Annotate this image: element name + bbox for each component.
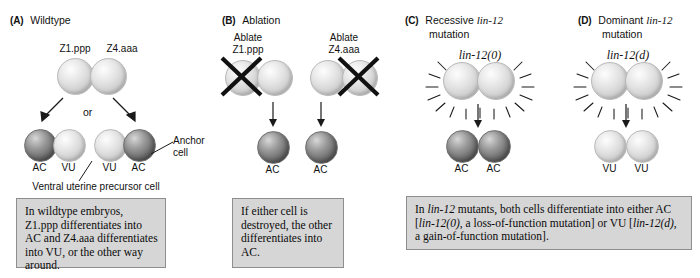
cell-outcome-d1-vu xyxy=(594,130,627,163)
caption-panel-b: If either cell is destroyed, the other d… xyxy=(232,198,344,268)
panel-b-title: Ablation xyxy=(242,14,280,26)
label-or: or xyxy=(83,106,92,118)
caption-panel-a: In wildtype embryos, Z1.ppp differentiat… xyxy=(16,198,166,268)
cell-outcome-c2-ac xyxy=(478,130,511,163)
label-outcome-b2: AC xyxy=(305,164,336,176)
panel-a-title: Wildtype xyxy=(30,14,70,26)
label-outcome-a3: VU xyxy=(94,162,125,174)
panel-b-tag: (B) xyxy=(222,15,235,26)
cell-d-left-lin12-d xyxy=(591,62,629,100)
label-outcome-c2: AC xyxy=(478,163,509,175)
panel-d-title: Dominant xyxy=(598,14,646,26)
label-outcome-d2: VU xyxy=(626,163,657,175)
arrow-b-left xyxy=(266,102,280,128)
panel-c-title: Recessive xyxy=(425,14,476,26)
panel-d-heading: (D)Dominant lin-12mutation xyxy=(578,14,672,40)
shared-caption-gene2: lin-12(0) xyxy=(419,217,460,229)
arrow-c xyxy=(471,104,485,129)
panel-c-title-gene: lin-12 xyxy=(477,14,503,26)
shared-caption-gene1: lin-12 xyxy=(427,203,454,215)
panel-b-heading: (B)Ablation xyxy=(222,14,280,28)
panel-d-title-gene: lin-12 xyxy=(646,14,672,26)
ablation-x-icon-left xyxy=(219,55,265,99)
shared-caption-gene3: lin-12(d) xyxy=(633,217,674,229)
ablation-x-icon-right xyxy=(336,55,382,99)
panel-c-title-line2: mutation xyxy=(429,28,503,41)
figure-root: (A)Wildtype Z1.ppp Z4.aaa or AC VU VU AC… xyxy=(0,0,700,278)
label-outcome-d1: VU xyxy=(594,163,625,175)
arrow-d xyxy=(619,104,633,129)
label-z1ppp: Z1.ppp xyxy=(52,43,98,55)
label-z4aaa: Z4.aaa xyxy=(99,43,145,55)
label-outcome-b1: AC xyxy=(257,164,288,176)
panel-a-heading: (A)Wildtype xyxy=(10,14,71,28)
panel-c-heading: (C)Recessive lin-12mutation xyxy=(405,14,503,40)
arrow-b-right xyxy=(314,102,328,128)
label-ablate-z1ppp-line1: Ablate xyxy=(222,32,274,44)
cell-c-left-lin12-0 xyxy=(443,62,481,100)
label-outcome-a4: AC xyxy=(123,162,154,174)
panel-a-tag: (A) xyxy=(10,15,23,26)
cell-outcome-d2-vu xyxy=(626,130,659,163)
shared-caption-part3: , a loss-of-function mutation] or VU [ xyxy=(460,217,633,229)
cell-outcome-b1-ac xyxy=(257,131,290,164)
shared-caption-part1: In xyxy=(415,203,427,215)
label-outcome-a1: AC xyxy=(24,162,55,174)
panel-d-title-line2: mutation xyxy=(602,28,672,41)
label-anchor-cell-line2: cell xyxy=(173,147,188,159)
label-ablate-z4aaa-line1: Ablate xyxy=(318,32,370,44)
caption-panels-cd: In lin-12 mutants, both cells differenti… xyxy=(406,196,692,250)
label-outcome-c1: AC xyxy=(446,163,477,175)
panel-d-tag: (D) xyxy=(578,15,591,26)
label-ventral-uterine-precursor: Ventral uterine precursor cell xyxy=(8,181,184,193)
cell-outcome-c1-ac xyxy=(446,130,479,163)
cell-outcome-a2-vu xyxy=(53,129,86,162)
cell-z1ppp-precursor xyxy=(57,58,94,95)
label-anchor-cell-line1: Anchor xyxy=(173,135,205,147)
cell-c-right-lin12-0 xyxy=(477,62,515,100)
panel-c-tag: (C) xyxy=(405,15,418,26)
cell-d-right-lin12-d xyxy=(625,62,663,100)
cell-z4aaa-precursor xyxy=(90,58,127,95)
cell-outcome-b2-ac xyxy=(305,131,338,164)
